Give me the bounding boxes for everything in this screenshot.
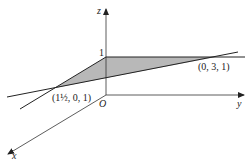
x-axis-label: x — [11, 150, 17, 159]
z-tick-label: 1 — [99, 47, 104, 58]
point-label-y-intercept: (0, 3, 1) — [198, 61, 230, 73]
z-axis-label: z — [96, 5, 101, 16]
point-label-x-intercept: (1½, 0, 1) — [52, 92, 91, 104]
y-axis-label: y — [236, 98, 242, 109]
origin-label: O — [99, 98, 106, 109]
diagram-canvas: z y x O 1 (1½, 0, 1) (0, 3, 1) — [0, 0, 250, 159]
x-axis — [8, 95, 106, 154]
